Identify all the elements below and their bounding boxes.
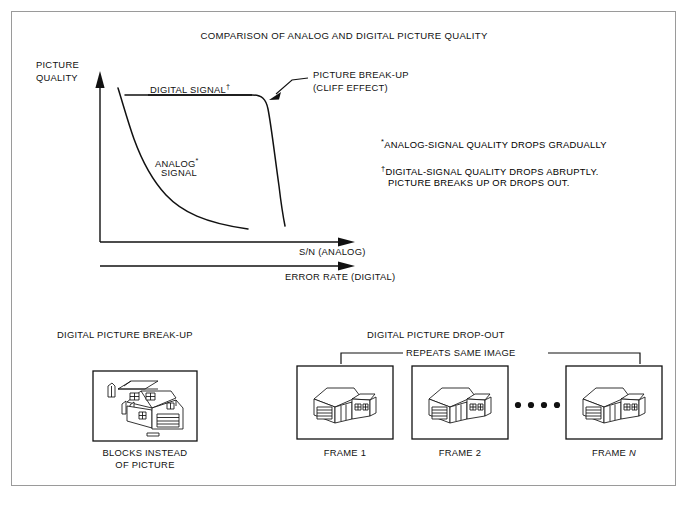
frame-n-caption: FRAME N — [564, 447, 664, 460]
frame-n-caption-index: N — [629, 447, 636, 458]
frame-n-caption-text: FRAME — [592, 447, 629, 458]
repeats-bracket-label: REPEATS SAME IMAGE — [406, 347, 516, 360]
figure-root: COMPARISON OF ANALOG AND DIGITAL PICTURE… — [0, 0, 689, 506]
dropout-panel-vector — [0, 0, 689, 506]
ellipsis-dots — [515, 402, 560, 408]
frame-2-caption: FRAME 2 — [410, 447, 510, 460]
frame-1-caption: FRAME 1 — [295, 447, 395, 460]
